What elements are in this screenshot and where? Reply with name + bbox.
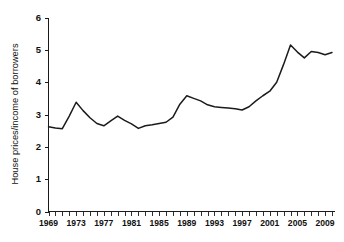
y-axis-tick-label: 6 [36,12,41,23]
x-axis-tick-label: 2001 [260,218,279,228]
x-axis-tick-label: 1985 [150,218,169,228]
x-axis-tick-label: 1981 [122,218,141,228]
y-axis-tick-marks [45,19,49,213]
x-axis-tick-label: 1997 [233,218,252,228]
y-axis-title: House prices/income of borrowers [10,43,20,184]
x-axis-tick-label: 1973 [67,218,86,228]
x-axis-minor-tick-marks [50,212,333,216]
y-axis-tick-label: 4 [36,76,42,87]
x-axis-tick-label: 2005 [288,218,307,228]
y-axis-title-group: House prices/income of borrowers [10,43,20,184]
x-axis-tick-label: 1989 [177,218,196,228]
x-axis-tick-labels: 1969197319771981198519891993199720012005… [39,218,335,228]
x-axis-tick-label: 1993 [205,218,224,228]
y-axis-tick-label: 3 [36,109,41,120]
y-axis-tick-label: 5 [36,44,42,55]
chart-figure: House prices/income of borrowers 0123456… [0,0,344,242]
y-axis-tick-label: 2 [36,141,41,152]
line-chart: House prices/income of borrowers 0123456… [0,0,344,242]
y-axis-tick-labels: 0123456 [36,12,42,217]
x-axis-tick-label: 1969 [39,218,58,228]
x-axis-tick-label: 1977 [94,218,113,228]
y-axis-tick-label: 1 [36,173,42,184]
x-axis-tick-label: 2009 [316,218,335,228]
y-axis-tick-label: 0 [36,206,41,217]
data-series-line [49,45,333,129]
